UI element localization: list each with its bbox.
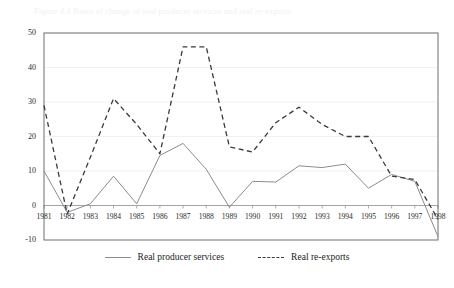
x-axis-tick-label: 1991 <box>263 212 289 221</box>
y-axis-tick-label: -10 <box>14 235 36 244</box>
line-solid-icon <box>105 257 131 258</box>
y-axis-tick-label: 50 <box>14 28 36 37</box>
series-line-2 <box>44 47 438 220</box>
legend-label: Real re-exports <box>291 252 349 262</box>
line-chart: -100102030405019811982198319841985198619… <box>0 0 454 288</box>
y-axis-tick-label: 20 <box>14 132 36 141</box>
y-axis-tick-label: 30 <box>14 97 36 106</box>
x-axis-tick-label: 1992 <box>286 212 312 221</box>
figure-page: Figure 4.4 Rates of change of real produ… <box>0 0 454 288</box>
x-axis-tick-label: 1988 <box>193 212 219 221</box>
x-axis-tick-label: 1995 <box>355 212 381 221</box>
x-axis-tick-label: 1998 <box>425 212 451 221</box>
x-axis-tick-label: 1989 <box>216 212 242 221</box>
legend-item-real-producer-services: Real producer services <box>105 252 225 262</box>
x-axis-tick-label: 1981 <box>31 212 57 221</box>
x-axis-tick-label: 1985 <box>124 212 150 221</box>
y-axis-tick-label: 40 <box>14 63 36 72</box>
x-axis-tick-label: 1983 <box>77 212 103 221</box>
x-axis-tick-label: 1987 <box>170 212 196 221</box>
x-axis-tick-label: 1984 <box>101 212 127 221</box>
y-axis-tick-label: 10 <box>14 166 36 175</box>
legend-label: Real producer services <box>138 252 225 262</box>
x-axis-tick-label: 1986 <box>147 212 173 221</box>
legend-item-real-re-exports: Real re-exports <box>258 252 349 262</box>
series-line-1 <box>44 143 438 236</box>
line-dashed-icon <box>258 257 284 258</box>
chart-legend: Real producer services Real re-exports <box>0 252 454 262</box>
x-axis-tick-label: 1993 <box>309 212 335 221</box>
y-axis-tick-label: 0 <box>14 201 36 210</box>
chart-svg <box>0 0 454 288</box>
x-axis-tick-label: 1994 <box>332 212 358 221</box>
x-axis-tick-label: 1997 <box>402 212 428 221</box>
x-axis-tick-label: 1996 <box>379 212 405 221</box>
x-axis-tick-label: 1982 <box>54 212 80 221</box>
x-axis-tick-label: 1990 <box>240 212 266 221</box>
